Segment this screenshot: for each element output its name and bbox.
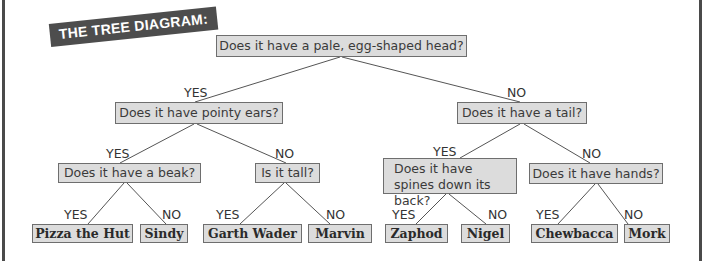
branch-label-yes: YES	[433, 145, 456, 159]
leaf-chewbacca: Chewbacca	[531, 224, 618, 243]
branch-label-yes: YES	[64, 208, 87, 222]
leaf-garth-wader: Garth Wader	[203, 224, 302, 243]
question-text: Does it have hands?	[532, 166, 659, 181]
branch-label-no: NO	[582, 147, 601, 161]
question-node-tail: Does it have a tail?	[457, 102, 587, 124]
leaf-mork: Mork	[624, 224, 670, 243]
question-node-hands: Does it have hands?	[529, 163, 663, 184]
leaf-sindy: Sindy	[140, 224, 188, 243]
question-node-spines: Does it have spines down its back?	[383, 158, 517, 194]
leaf-pizza-the-hut: Pizza the Hut	[32, 224, 133, 243]
branch-label-no: NO	[488, 208, 507, 222]
question-text: Does it have a tail?	[462, 105, 582, 120]
leaf-name: Mork	[628, 226, 665, 241]
leaf-name: Pizza the Hut	[35, 226, 130, 241]
question-node-tall: Is it tall?	[255, 163, 320, 183]
branch-label-yes: YES	[184, 86, 207, 100]
question-node-pointy-ears: Does it have pointy ears?	[115, 102, 283, 124]
leaf-nigel: Nigel	[461, 224, 510, 243]
question-node-beak: Does it have a beak?	[58, 163, 201, 183]
question-text: Does it have a beak?	[64, 165, 195, 180]
leaf-name: Zaphod	[390, 226, 442, 241]
leaf-name: Garth Wader	[208, 226, 297, 241]
tree-diagram-panel: THE TREE DIAGRAM: Does it have a pale, e…	[0, 0, 704, 261]
leaf-name: Nigel	[467, 226, 505, 241]
leaf-name: Marvin	[315, 226, 365, 241]
branch-label-no: NO	[275, 147, 294, 161]
question-text: Is it tall?	[261, 165, 314, 180]
leaf-name: Sindy	[145, 226, 184, 241]
branch-label-no: NO	[326, 208, 345, 222]
branch-label-yes: YES	[392, 208, 415, 222]
branch-label-yes: YES	[106, 147, 129, 161]
branch-label-yes: YES	[216, 208, 239, 222]
leaf-name: Chewbacca	[536, 226, 614, 241]
root-question-text: Does it have a pale, egg-shaped head?	[219, 38, 463, 53]
question-text: Does it have pointy ears?	[119, 105, 278, 120]
branch-label-no: NO	[162, 208, 181, 222]
branch-label-no: NO	[507, 86, 526, 100]
leaf-zaphod: Zaphod	[385, 224, 448, 243]
branch-label-no: NO	[624, 208, 643, 222]
root-question-node: Does it have a pale, egg-shaped head?	[216, 35, 467, 57]
branch-label-yes: YES	[536, 208, 559, 222]
leaf-marvin: Marvin	[308, 224, 372, 243]
